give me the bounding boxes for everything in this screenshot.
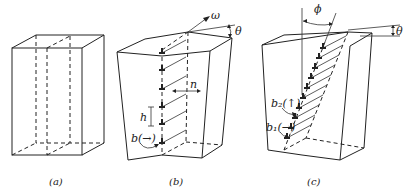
panel-a-block: [12, 35, 104, 155]
phi-label: ϕ: [314, 3, 322, 16]
theta-label-b: θ: [235, 25, 242, 38]
n-label: n: [190, 78, 197, 91]
dislocation-hatching: [287, 36, 346, 138]
panel-b-caption: (b): [169, 176, 183, 187]
theta-label-c: θ: [396, 25, 403, 38]
panel-c-block: [262, 8, 400, 160]
panel-a-caption: (a): [49, 176, 63, 187]
h-label: h: [140, 111, 147, 124]
b1-label: b₁(→): [266, 121, 295, 134]
dislocation-boundary-diagram: (a): [0, 0, 414, 194]
b2-label: b₂(↑): [271, 97, 300, 110]
b-label: b(→): [131, 132, 156, 145]
omega-label: ω: [211, 9, 220, 22]
panel-c-caption: (c): [307, 176, 321, 187]
